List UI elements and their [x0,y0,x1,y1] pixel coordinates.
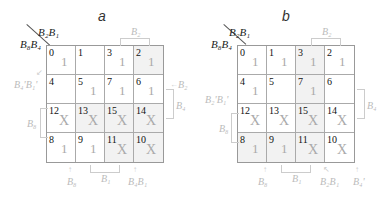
arrow-marker: ↑ [263,165,267,174]
cell-6: 6 [325,75,354,104]
cell-11: 11X [296,133,325,162]
label-left-top: B₂'B₁' [205,94,228,105]
label-bottom-1: B₈ [67,176,77,187]
label-left-mid: B₈ [219,123,229,134]
arrow-marker: ↑ [133,165,137,174]
cell-12: 12X [238,104,267,133]
label-bottom-3: B₂B₁ [320,176,339,187]
label-bottom-1: B₈ [258,176,268,187]
cell-13: 13X [76,104,105,133]
label-right-top: B₂ [178,79,188,90]
cell-1: 1 [76,46,105,75]
cell-6: 61 [134,75,163,104]
arrow-marker: ← [170,80,178,89]
column-variables: B₂B₁ [229,26,250,38]
cell-10: 10X [134,133,163,162]
cell-0: 01 [47,46,76,75]
cell-0: 01 [238,46,267,75]
label-left-top: B₄'B₁' [14,79,37,90]
map-title: b [282,8,290,24]
label-left-mid: B₈ [27,118,37,129]
map-title: a [98,8,106,24]
cell-1: 11 [267,46,296,75]
cell-4: 41 [238,75,267,104]
bracket-bottom [281,165,311,173]
arrow-marker: ↑ [355,165,359,174]
row-variables: B₈B₄ [211,38,232,50]
bracket-right [166,89,174,119]
row-variables: B₈B₄ [20,38,41,50]
bracket-bottom [90,165,120,173]
cell-12: 12X [47,104,76,133]
kmap-grid: 01 11 31 21 41 5 71 6 12X 13X 15X 14X 81… [237,45,355,163]
cell-9: 91 [267,133,296,162]
bracket-top [311,38,341,46]
cell-14: 14X [325,104,354,133]
cell-7: 71 [296,75,325,104]
label-bottom-2: B₁ [292,173,302,184]
kmap-a: a B₂B₁ B₈B₄ 01 1 31 21 4 51 71 61 12X 13… [0,0,195,197]
cell-2: 21 [134,46,163,75]
label-bottom-2: B₁ [101,173,111,184]
cell-3: 31 [105,46,134,75]
bracket-left [231,113,239,143]
label-bottom-4: B₄' [353,176,365,187]
cell-2: 21 [325,46,354,75]
arrow-marker: ↙ [36,68,43,77]
cell-11: 11X [105,133,134,162]
arrow-marker: ↖ [323,165,330,174]
label-bottom-3: B₄B₁ [128,176,147,187]
cell-3: 31 [296,46,325,75]
cell-4: 4 [47,75,76,104]
arrow-marker: ↑ [68,165,72,174]
cell-14: 14X [134,104,163,133]
column-variables: B₂B₁ [38,26,59,38]
label-top: B₂ [322,26,332,37]
label-right-mid: B₄ [367,100,377,111]
cell-5: 5 [267,75,296,104]
label-right-mid: B₄ [176,100,186,111]
kmap-b: b B₂B₁ B₈B₄ 01 11 31 21 41 5 71 6 12X 13… [195,0,390,197]
bracket-right [357,89,365,119]
cell-15: 15X [105,104,134,133]
label-top: B₂ [131,26,141,37]
cell-8: 81 [238,133,267,162]
cell-8: 81 [47,133,76,162]
kmap-grid: 01 1 31 21 4 51 71 61 12X 13X 15X 14X 81… [46,45,164,163]
cell-10: 10X [325,133,354,162]
cell-7: 71 [105,75,134,104]
cell-5: 51 [76,75,105,104]
cell-15: 15X [296,104,325,133]
bracket-top [120,38,150,46]
bracket-left [40,108,48,138]
cell-13: 13X [267,104,296,133]
cell-9: 91 [76,133,105,162]
